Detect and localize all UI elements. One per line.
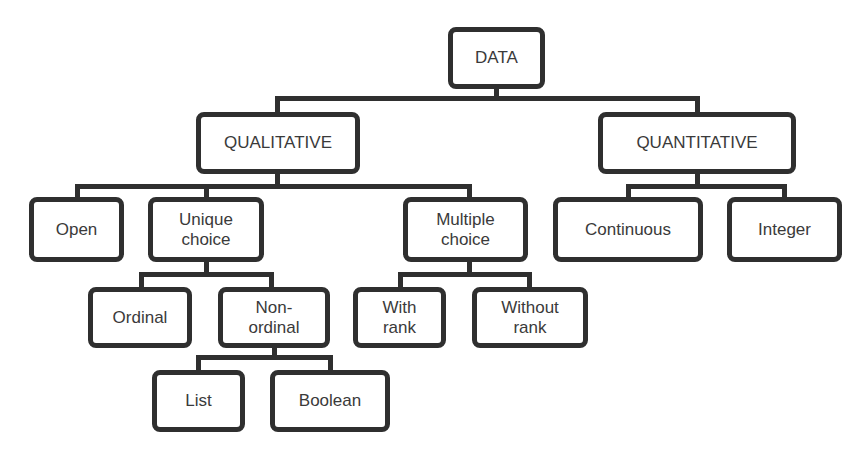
connector	[139, 272, 144, 288]
connector	[782, 184, 787, 198]
node-multiple-choice: Multiple choice	[403, 197, 528, 262]
connector	[398, 272, 403, 288]
data-taxonomy-diagram: DATA QUALITATIVE QUANTITATIVE Open Uniqu…	[0, 0, 867, 457]
connector	[527, 272, 532, 288]
connector	[196, 355, 201, 371]
connector	[467, 184, 472, 198]
connector	[196, 355, 333, 360]
connector	[328, 355, 333, 371]
node-integer: Integer	[727, 197, 842, 262]
node-continuous: Continuous	[553, 197, 703, 262]
node-without-rank: Without rank	[472, 287, 588, 348]
connector	[75, 184, 80, 198]
node-non-ordinal: Non- ordinal	[218, 287, 330, 348]
node-boolean: Boolean	[270, 370, 390, 432]
connector	[626, 184, 631, 198]
node-list: List	[152, 370, 245, 432]
connector	[275, 96, 280, 113]
connector	[204, 184, 209, 198]
connector	[269, 272, 274, 288]
connector	[626, 184, 787, 189]
node-ordinal: Ordinal	[88, 287, 192, 348]
node-quantitative: QUANTITATIVE	[598, 112, 796, 174]
node-open: Open	[29, 197, 124, 262]
connector	[695, 96, 700, 113]
connector	[398, 272, 532, 277]
connector	[139, 272, 274, 277]
connector	[275, 96, 700, 101]
node-qualitative: QUALITATIVE	[196, 112, 360, 174]
node-data: DATA	[448, 27, 545, 89]
node-unique-choice: Unique choice	[148, 197, 264, 262]
node-with-rank: With rank	[353, 287, 446, 348]
connector	[75, 184, 472, 189]
